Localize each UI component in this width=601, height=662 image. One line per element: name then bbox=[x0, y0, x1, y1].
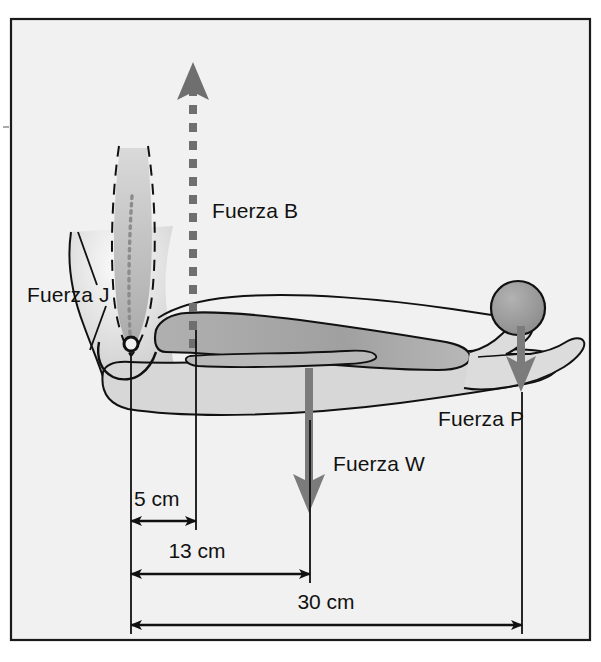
force-b-label: Fuerza B bbox=[212, 199, 298, 222]
figure-root: Fuerza B Fuerza J Fuerza W Fuerza P 5 cm bbox=[0, 0, 601, 662]
force-j-label: Fuerza J bbox=[27, 283, 110, 306]
force-p-label: Fuerza P bbox=[438, 407, 524, 430]
forearm-force-diagram: Fuerza B Fuerza J Fuerza W Fuerza P 5 cm bbox=[0, 0, 601, 662]
dimension-label-30cm: 30 cm bbox=[297, 590, 354, 613]
force-w-label: Fuerza W bbox=[333, 452, 425, 475]
dimension-label-5cm: 5 cm bbox=[134, 487, 180, 510]
dimension-label-13cm: 13 cm bbox=[168, 539, 225, 562]
joint-center-marker bbox=[124, 337, 138, 351]
